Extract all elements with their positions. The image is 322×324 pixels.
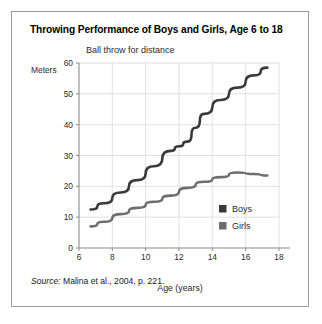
svg-text:16: 16: [241, 252, 251, 262]
svg-text:18: 18: [274, 252, 284, 262]
svg-text:14: 14: [208, 252, 218, 262]
svg-text:6: 6: [77, 252, 82, 262]
svg-text:12: 12: [174, 252, 184, 262]
svg-text:30: 30: [64, 151, 74, 161]
axis-tick-labels: 0102030405060681012141618: [64, 58, 284, 262]
svg-text:10: 10: [64, 212, 74, 222]
figure-card: Throwing Performance of Boys and Girls, …: [11, 11, 309, 307]
legend-label-boys: Boys: [232, 204, 253, 214]
legend-swatch-boys: [219, 205, 227, 213]
svg-text:0: 0: [68, 243, 73, 253]
chart-plot: 0102030405060681012141618 BoysGirls Age …: [12, 12, 310, 308]
legend-swatch-girls: [219, 222, 227, 230]
svg-text:8: 8: [110, 252, 115, 262]
source-citation: Malina et al., 2004, p. 221.: [61, 276, 165, 286]
svg-text:60: 60: [64, 58, 74, 68]
legend-label-girls: Girls: [232, 221, 251, 231]
svg-text:20: 20: [64, 181, 74, 191]
svg-text:40: 40: [64, 120, 74, 130]
source-note: Source: Malina et al., 2004, p. 221.: [31, 276, 164, 286]
svg-text:10: 10: [141, 252, 151, 262]
svg-text:50: 50: [64, 89, 74, 99]
source-label: Source:: [31, 276, 61, 286]
